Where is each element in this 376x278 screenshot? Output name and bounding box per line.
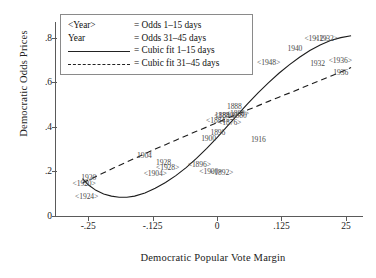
chart-figure: Democratic Odds Prices Democratic Popula… [0,0,376,278]
legend-label: = Odds 31–45 days [134,32,206,45]
y-tick-label: .6 [45,77,52,87]
data-point-label: <1932> [315,33,338,42]
data-point-label: 1884 [215,110,230,119]
legend-key: Year [68,32,134,45]
y-tick-mark [52,127,57,128]
x-axis-label: Democratic Popular Vote Margin [58,252,368,263]
x-tick-label: 0 [215,221,220,231]
data-point-label: <1892> [210,168,233,177]
data-point-label: <1948> [257,58,280,67]
legend-label: = Odds 1–15 days [134,19,201,32]
y-tick-mark [52,171,57,172]
data-point-label: <1936> [329,55,352,64]
data-point-label: 1940 [287,44,302,53]
x-tick-mark [217,216,218,221]
x-tick-label: 25 [341,221,351,231]
data-point-label: 1916 [251,135,266,144]
fit-curve-dashed [83,67,352,183]
data-point-label: 1880 [232,110,247,119]
x-tick-label: .125 [273,221,290,231]
chart-legend: <Year>= Odds 1–15 daysYear= Odds 31–45 d… [60,14,253,75]
data-point-label: 1936 [333,67,348,76]
data-point-label: 1920 [81,172,96,181]
x-tick-label: -.125 [143,221,163,231]
legend-label: = Cubic fit 31–45 days [134,57,219,70]
legend-row: = Cubic fit 31–45 days [68,57,245,70]
legend-key: <Year> [68,19,134,32]
legend-row: = Cubic fit 1–15 days [68,44,245,57]
x-tick-label: -.25 [81,221,96,231]
legend-label: = Cubic fit 1–15 days [134,44,215,57]
x-tick-mark [281,216,282,221]
data-point-label: 1932 [310,59,325,68]
y-tick-mark [52,82,57,83]
legend-line-solid [68,51,130,52]
y-axis-label: Democratic Odds Prices [18,0,29,169]
data-point-label: 1928 [156,157,171,166]
y-tick-mark [52,216,57,217]
x-tick-mark [88,216,89,221]
data-point-label: 1896 [210,128,225,137]
x-axis-line [55,216,363,217]
legend-row: Year= Odds 31–45 days [68,32,245,45]
y-tick-label: .2 [45,166,52,176]
y-tick-label: .8 [45,33,52,43]
data-point-label: <1924> [75,191,98,200]
data-point-label: <1876> [218,118,241,127]
legend-line-dashed [68,64,130,65]
x-tick-mark [153,216,154,221]
x-tick-mark [346,216,347,221]
legend-row: <Year>= Odds 1–15 days [68,19,245,32]
data-point-label: 1904 [137,150,152,159]
y-tick-label: .4 [45,122,52,132]
y-tick-mark [52,38,57,39]
